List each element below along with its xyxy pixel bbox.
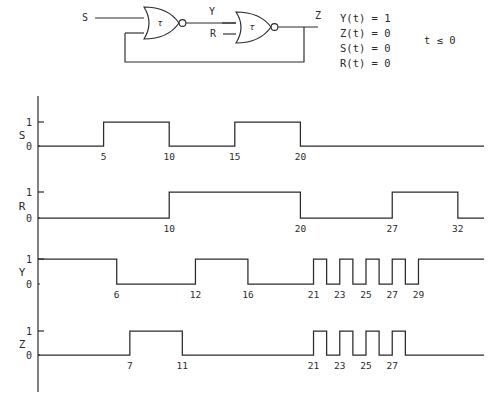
- time-tick-label: 7: [127, 360, 133, 371]
- time-tick-label: 10: [163, 223, 175, 234]
- level-label-high-s: 1: [26, 117, 32, 128]
- time-tick-label: 12: [190, 289, 201, 300]
- signal-name-s: S: [19, 129, 26, 142]
- initial-condition-line-2: S(t) = 0: [340, 42, 391, 54]
- time-tick-label: 27: [387, 289, 398, 300]
- time-tick-label: 23: [334, 360, 345, 371]
- initial-condition-time-range: t ≤ 0: [424, 34, 456, 46]
- timing-diagram-figure: S τ Y R τ Z Y(t: [0, 0, 492, 397]
- signal-name-z: Z: [19, 338, 26, 351]
- time-tick-label: 21: [308, 289, 320, 300]
- time-tick-label: 23: [334, 289, 345, 300]
- time-tick-label: 32: [452, 223, 463, 234]
- waveform-trace-r: [38, 192, 484, 218]
- time-tick-label: 20: [295, 223, 307, 234]
- signal-name-r: R: [19, 200, 26, 213]
- initial-conditions-block: Y(t) = 1 Z(t) = 0 S(t) = 0 R(t) = 0 t ≤ …: [340, 12, 456, 69]
- waveform-z: Z1071121232527: [19, 326, 484, 371]
- time-tick-label: 15: [229, 151, 240, 162]
- level-label-high-r: 1: [26, 187, 32, 198]
- time-tick-label: 29: [413, 289, 425, 300]
- time-tick-label: 5: [101, 151, 107, 162]
- waveform-trace-z: [38, 331, 484, 355]
- time-tick-label: 11: [177, 360, 189, 371]
- waveform-y: Y10612162123252729: [19, 254, 484, 300]
- time-tick-label: 21: [308, 360, 320, 371]
- waveform-group: S105101520R1010202732Y10612162123252729Z…: [19, 117, 484, 371]
- time-tick-label: 16: [242, 289, 254, 300]
- time-tick-label: 10: [163, 151, 175, 162]
- nor-gate-2-delay-label: τ: [249, 22, 255, 32]
- nor-gate-1-delay-label: τ: [157, 18, 163, 28]
- net-label-z: Z: [315, 10, 321, 21]
- level-label-low-s: 0: [26, 141, 32, 152]
- time-tick-label: 20: [295, 151, 307, 162]
- waveform-s: S105101520: [19, 117, 484, 162]
- level-label-low-y: 0: [26, 279, 32, 290]
- signal-name-y: Y: [19, 266, 26, 279]
- figure-canvas: S τ Y R τ Z Y(t: [0, 0, 492, 397]
- waveform-trace-s: [38, 122, 484, 146]
- time-tick-label: 25: [360, 289, 371, 300]
- net-label-y: Y: [209, 6, 215, 17]
- time-tick-label: 25: [360, 360, 371, 371]
- level-label-low-z: 0: [26, 350, 32, 361]
- nor-latch-schematic: S τ Y R τ Z: [82, 6, 321, 62]
- level-label-high-z: 1: [26, 326, 32, 337]
- initial-condition-line-0: Y(t) = 1: [340, 12, 391, 24]
- initial-condition-line-3: R(t) = 0: [340, 57, 391, 69]
- initial-condition-line-1: Z(t) = 0: [340, 27, 391, 39]
- time-tick-label: 27: [387, 360, 398, 371]
- waveform-r: R1010202732: [19, 187, 484, 234]
- level-label-high-y: 1: [26, 254, 32, 265]
- input-label-s: S: [82, 12, 88, 23]
- time-tick-label: 6: [114, 289, 120, 300]
- nor-gate-2-inversion-bubble: [271, 24, 278, 31]
- waveform-trace-y: [38, 259, 484, 284]
- nor-gate-1-inversion-bubble: [179, 20, 186, 27]
- input-label-r: R: [210, 28, 217, 39]
- level-label-low-r: 0: [26, 213, 32, 224]
- time-tick-label: 27: [387, 223, 398, 234]
